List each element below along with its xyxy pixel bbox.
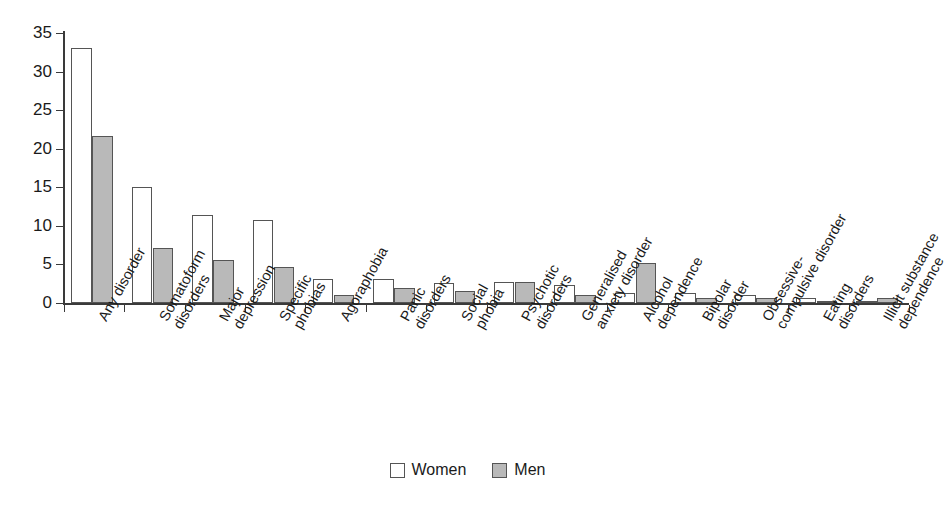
y-axis-label-slot: 25 xyxy=(0,101,52,118)
y-axis-label-slot: 10 xyxy=(0,217,52,234)
bar-group xyxy=(313,33,355,303)
x-axis-tick xyxy=(124,305,125,312)
x-axis-tick-origin xyxy=(64,305,65,312)
y-axis-label-slot: 30 xyxy=(0,63,52,80)
y-axis-tick xyxy=(56,187,64,188)
bar-women xyxy=(71,48,92,303)
y-axis-tick xyxy=(56,149,64,150)
x-axis-tick xyxy=(366,305,367,312)
y-axis-tick xyxy=(56,33,64,34)
y-axis-label-slot: 0 xyxy=(0,294,52,311)
legend-label: Men xyxy=(514,462,545,478)
legend-entry: Women xyxy=(390,462,467,478)
bar-men xyxy=(92,136,113,303)
y-axis-tick-label: 15 xyxy=(6,178,52,195)
bar-group xyxy=(735,33,777,303)
y-axis-tick xyxy=(56,303,64,304)
y-axis-tick-label: 0 xyxy=(6,294,52,311)
y-axis-tick-label: 20 xyxy=(6,140,52,157)
y-axis-tick-label: 10 xyxy=(6,217,52,234)
y-axis-tick xyxy=(56,226,64,227)
y-axis-label-slot: 5 xyxy=(0,255,52,272)
y-axis-label-slot: 15 xyxy=(0,178,52,195)
y-axis-tick-label: 25 xyxy=(6,101,52,118)
legend-entry: Men xyxy=(492,462,545,478)
chart-legend: WomenMen xyxy=(0,462,935,478)
gray-square-icon xyxy=(492,463,507,478)
y-axis-label-slot: 35 xyxy=(0,24,52,41)
y-axis-tick xyxy=(56,72,64,73)
legend-label: Women xyxy=(412,462,467,478)
y-axis-label-slot: 20 xyxy=(0,140,52,157)
y-axis-tick xyxy=(56,264,64,265)
bar-group xyxy=(494,33,536,303)
bar-group xyxy=(856,33,898,303)
bar-group xyxy=(71,33,113,303)
y-axis-tick-label: 30 xyxy=(6,63,52,80)
y-axis-tick-label: 5 xyxy=(6,255,52,272)
y-axis-tick-label: 35 xyxy=(6,24,52,41)
bar-group xyxy=(554,33,596,303)
bar-women xyxy=(373,279,394,303)
y-axis-tick xyxy=(56,110,64,111)
bar-group xyxy=(434,33,476,303)
white-square-icon xyxy=(390,463,405,478)
